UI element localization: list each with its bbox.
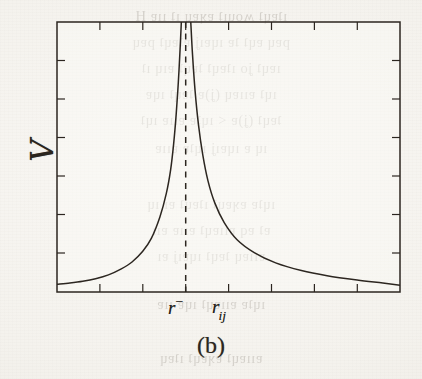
x-axis-label-r-minus-superscript: − (175, 294, 182, 309)
figure-b: V r− rij (b) (0, 0, 422, 379)
y-axis-label-glyph: V (26, 139, 57, 161)
plot-graphic (0, 0, 422, 379)
plot-area (57, 22, 400, 292)
x-axis-label-r-ij-subscript: ij (218, 308, 226, 323)
x-axis-label-r-ij: rij (212, 297, 227, 320)
x-axis-label-r-minus: r− (168, 296, 183, 317)
figure-caption: (b) (0, 333, 422, 357)
y-axis-label: V (20, 122, 64, 178)
